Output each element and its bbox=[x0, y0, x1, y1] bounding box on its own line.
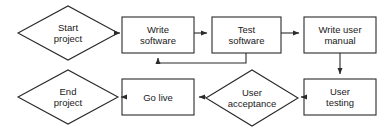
shape-write-user-manual bbox=[304, 17, 376, 53]
shape-start-project bbox=[18, 6, 118, 60]
shape-end-project bbox=[18, 70, 118, 124]
connector-test-back-to-write bbox=[158, 53, 246, 63]
shape-user-acceptance bbox=[206, 70, 298, 126]
flowchart-diagram: Start project Write software Test softwa… bbox=[0, 0, 392, 132]
shape-go-live bbox=[122, 79, 194, 115]
flowchart-canvas bbox=[0, 0, 392, 132]
shape-user-testing bbox=[304, 79, 376, 115]
shape-write-software bbox=[122, 17, 194, 53]
shape-test-software bbox=[212, 17, 281, 53]
